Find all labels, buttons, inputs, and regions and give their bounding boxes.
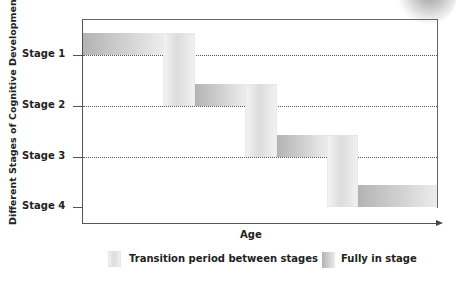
plot-frame-top xyxy=(82,19,437,20)
x-axis-arrow-icon xyxy=(436,220,443,226)
x-axis xyxy=(82,223,437,224)
fully-in-stage-4-bar xyxy=(358,185,437,207)
fully-in-stage-3-bar xyxy=(277,135,327,157)
corner-decoration xyxy=(398,0,456,24)
stage-4-label: Stage 4 xyxy=(22,200,65,211)
legend-fully-swatch xyxy=(322,252,335,268)
y-axis xyxy=(82,19,83,223)
stage-3-label: Stage 3 xyxy=(22,150,65,161)
transition-1-2-bar xyxy=(163,33,195,106)
transition-2-3-bar xyxy=(245,84,277,157)
fully-in-stage-2-bar xyxy=(195,84,245,106)
transition-3-4-bar xyxy=(327,135,358,207)
legend-transition-label: Transition period between stages xyxy=(129,253,318,264)
legend-transition-swatch xyxy=(108,251,121,267)
stage-3-gridline xyxy=(83,157,437,158)
y-axis-label: Different Stages of Cognitive Developmen… xyxy=(7,25,21,225)
legend-fully-label: Fully in stage xyxy=(341,253,417,264)
fully-in-stage-1-bar xyxy=(83,33,163,55)
plot-frame-right xyxy=(437,19,438,208)
x-axis-label: Age xyxy=(240,229,262,240)
stage-2-label: Stage 2 xyxy=(22,99,65,110)
stage-1-label: Stage 1 xyxy=(22,48,65,59)
stage-1-gridline xyxy=(83,55,437,56)
